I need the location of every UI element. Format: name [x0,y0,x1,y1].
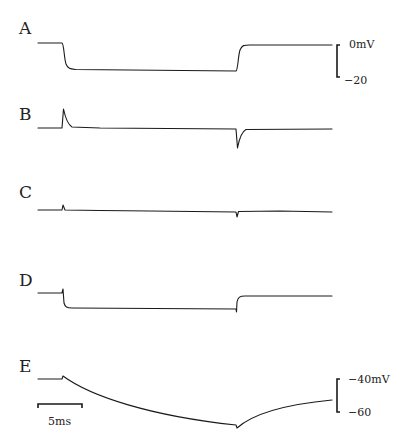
trace-d [38,289,332,312]
electrophysiology-figure: A 0mV −20 B C D E −40mV −60 5ms [0,0,407,445]
panel-label-a: A [18,18,32,38]
voltage-scale-bottom-lower: −60 [348,406,371,419]
voltage-scale-top-upper: 0mV [349,38,375,51]
panel-label-b: B [19,104,32,124]
voltage-scale-top-lower: −20 [344,74,367,87]
trace-e [38,376,332,428]
trace-b [38,109,332,148]
time-scale-bar [38,404,82,408]
panel-label-c: C [19,182,32,202]
voltage-scale-bar-top [337,45,340,77]
voltage-scale-bar-bottom [337,379,340,412]
time-scale-label: 5ms [48,415,71,428]
trace-c [38,205,332,217]
trace-a [38,43,332,71]
panel-label-d: D [19,270,33,290]
voltage-scale-bottom-upper: −40mV [348,373,391,386]
panel-label-e: E [19,356,31,376]
